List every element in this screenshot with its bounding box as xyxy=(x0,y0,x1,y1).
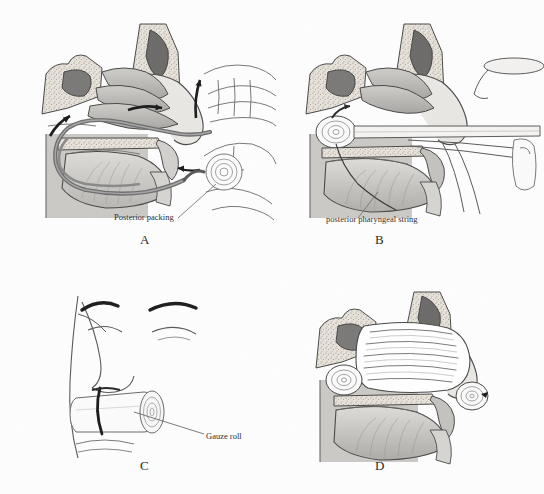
eye-right-crease xyxy=(158,337,190,340)
callout-posterior-packing: Posterior packing xyxy=(114,212,174,222)
panel-a-illustration xyxy=(28,22,278,222)
figure-root: Posterior packing A xyxy=(0,0,544,494)
catheter-tip xyxy=(184,171,204,180)
anterior-nasal-packing xyxy=(356,322,470,392)
eyebrow-right xyxy=(150,303,196,310)
tongue xyxy=(324,158,438,212)
panel-b-illustration xyxy=(292,22,542,222)
hard-palate xyxy=(322,146,428,158)
posterior-packing-roll xyxy=(206,154,242,190)
anterior-gauze-spiral xyxy=(456,382,488,410)
finger xyxy=(512,139,536,190)
leader-line-posterior-packing xyxy=(178,184,216,218)
posterior-gauze-spiral xyxy=(326,365,362,395)
upper-lip xyxy=(76,440,134,444)
face-contour-left xyxy=(70,296,78,458)
panel-a: Posterior packing xyxy=(28,22,278,222)
panel-letter-a: A xyxy=(140,232,150,248)
panel-d-illustration xyxy=(300,292,540,464)
panel-c: Gauze roll xyxy=(48,292,278,462)
frontal-sinus xyxy=(62,70,91,97)
panel-d xyxy=(300,292,540,464)
lower-lip xyxy=(78,449,132,452)
nose-bridge xyxy=(82,302,101,388)
tongue xyxy=(62,151,170,208)
panel-letter-d: D xyxy=(375,458,385,474)
nasopharyngeal-pack xyxy=(316,116,356,148)
gauze-roll xyxy=(70,391,164,433)
hard-palate xyxy=(58,138,162,150)
hard-palate xyxy=(334,394,438,406)
tongue xyxy=(334,406,448,460)
callout-posterior-pharyngeal-string: posterior pharyngeal string xyxy=(326,214,418,224)
panel-letter-b: B xyxy=(375,232,384,248)
eyebrow-left xyxy=(82,303,118,310)
panel-c-illustration xyxy=(48,292,278,462)
hand-upper xyxy=(204,65,276,126)
laryngeal-mirror xyxy=(474,58,544,99)
eye-right xyxy=(152,327,196,334)
tongue-depressor xyxy=(354,126,540,138)
panel-b: posterior pharyngeal string xyxy=(292,22,542,222)
callout-gauze-roll: Gauze roll xyxy=(206,431,242,441)
panel-letter-c: C xyxy=(140,458,149,474)
string-over-columella xyxy=(92,388,120,390)
nose-side xyxy=(78,314,106,332)
frontal-sinus xyxy=(326,70,355,97)
